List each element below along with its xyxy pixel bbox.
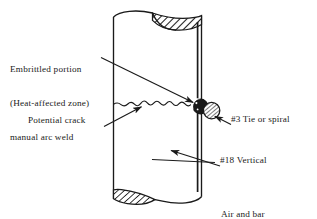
- weld-speckle-a: [195, 102, 197, 104]
- label-embrittled-line2: (Heat-affected zone): [10, 98, 89, 109]
- label-embrittled-line3: manual arc weld: [10, 132, 89, 143]
- weld-speckle-b: [197, 109, 199, 111]
- label-embrittled-line1: Embrittled portion: [10, 64, 89, 75]
- label-air-bar-temperatures: Air and bar temperatures-cold: [221, 186, 290, 219]
- label-embrittled-portion: Embrittled portion (Heat-affected zone) …: [10, 41, 89, 166]
- label-potential-crack: Potential crack: [28, 115, 86, 126]
- figure-container: Embrittled portion (Heat-affected zone) …: [0, 0, 317, 219]
- label-vertical-bar: #18 Vertical: [220, 155, 267, 166]
- concrete-column: [114, 11, 202, 203]
- label-temperatures-line1: Air and bar: [221, 209, 290, 219]
- leader-tie-to-circle: [215, 116, 231, 124]
- column-fill: [114, 11, 202, 203]
- label-tie-or-spiral: #3 Tie or spiral: [231, 114, 290, 125]
- tie-bar-section-circle: [203, 102, 219, 118]
